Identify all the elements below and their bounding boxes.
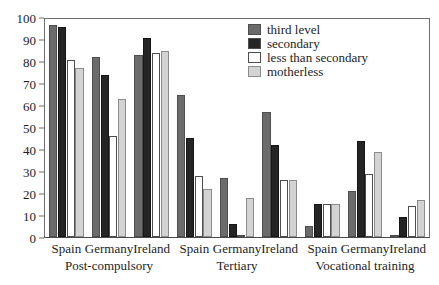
bar-motherless-germany-7: [374, 152, 382, 237]
y-axis-tick-label: 50: [23, 122, 36, 135]
y-axis: 1009080706050403020100: [0, 18, 44, 239]
bar-secondary-germany-7: [357, 141, 365, 237]
bar-less-than-secondary-ireland-5: [280, 180, 288, 237]
legend-swatch-icon: [248, 66, 261, 77]
legend-item-label: secondary: [267, 37, 320, 50]
legend-item: secondary: [248, 37, 424, 50]
bar-motherless-spain-3: [203, 189, 211, 237]
x-axis-label-spain-6: Spain: [308, 242, 338, 255]
bar-less-than-secondary-germany-7: [365, 174, 373, 238]
legend-item-label: third level: [267, 23, 320, 36]
x-axis-label-ireland-5: Ireland: [261, 242, 298, 255]
x-axis-country-labels: SpainGermanyIrelandSpainGermanyIrelandSp…: [45, 242, 429, 258]
legend-item: motherless: [248, 65, 424, 78]
group-label-post-compulsory: Post-compulsory: [65, 259, 153, 272]
bar-less-than-secondary-ireland-8: [408, 206, 416, 237]
bar-less-than-secondary-spain-3: [195, 176, 203, 237]
bar-third-level-germany-7: [348, 191, 356, 237]
bar-less-than-secondary-spain-6: [323, 204, 331, 237]
x-axis-label-ireland-2: Ireland: [133, 242, 170, 255]
bar-less-than-secondary-ireland-2: [152, 53, 160, 237]
bar-secondary-germany-1: [101, 75, 109, 237]
bar-third-level-spain-0: [49, 25, 57, 237]
bar-third-level-ireland-8: [390, 235, 398, 237]
bar-motherless-germany-4: [246, 198, 254, 237]
bar-motherless-spain-6: [331, 204, 339, 237]
y-axis-tick-label: 70: [23, 78, 36, 91]
y-axis-tick-label: 20: [23, 188, 36, 201]
legend-item-label: less than secondary: [267, 51, 368, 64]
x-axis-label-spain-3: Spain: [180, 242, 210, 255]
legend-swatch-icon: [248, 52, 261, 63]
x-axis-group-labels: Post-compulsoryTertiaryVocational traini…: [45, 259, 429, 277]
x-axis-label-germany-7: Germany: [341, 242, 389, 255]
x-axis-label-germany-4: Germany: [213, 242, 261, 255]
y-axis-tick-label: 60: [23, 100, 36, 113]
y-axis-tick-label: 0: [30, 232, 37, 245]
x-axis-label-ireland-8: Ireland: [389, 242, 426, 255]
legend-swatch-icon: [248, 24, 261, 35]
chart-page: 1009080706050403020100 third levelsecond…: [0, 0, 439, 285]
legend-item: third level: [248, 23, 424, 36]
legend-swatch-icon: [248, 38, 261, 49]
bar-motherless-germany-1: [118, 99, 126, 237]
x-axis-label-germany-1: Germany: [85, 242, 133, 255]
bar-third-level-spain-3: [177, 95, 185, 237]
bar-third-level-germany-1: [92, 57, 100, 237]
y-axis-tick-label: 80: [23, 56, 36, 69]
bar-third-level-ireland-2: [134, 55, 142, 237]
bar-secondary-germany-4: [229, 224, 237, 237]
y-axis-tick-label: 30: [23, 166, 36, 179]
bar-secondary-ireland-2: [143, 38, 151, 237]
bar-less-than-secondary-germany-1: [109, 136, 117, 237]
bar-third-level-germany-4: [220, 178, 228, 237]
bar-secondary-spain-6: [314, 204, 322, 237]
bar-secondary-spain-0: [58, 27, 66, 237]
x-axis-label-spain-0: Spain: [52, 242, 82, 255]
y-axis-tick-label: 10: [23, 210, 36, 223]
bar-less-than-secondary-germany-4: [237, 235, 245, 237]
legend-item: less than secondary: [248, 51, 424, 64]
bar-secondary-ireland-5: [271, 145, 279, 237]
bar-third-level-ireland-5: [262, 112, 270, 237]
bar-motherless-ireland-2: [161, 51, 169, 237]
y-axis-tick-label: 100: [17, 12, 37, 25]
group-label-vocational-training: Vocational training: [315, 259, 414, 272]
bar-motherless-ireland-8: [417, 200, 425, 237]
y-axis-tick-label: 40: [23, 144, 36, 157]
bar-secondary-ireland-8: [399, 217, 407, 237]
bar-motherless-spain-0: [75, 68, 83, 237]
bar-third-level-spain-6: [305, 226, 313, 237]
bar-secondary-spain-3: [186, 138, 194, 237]
bar-motherless-ireland-5: [289, 180, 297, 237]
group-label-tertiary: Tertiary: [217, 259, 258, 272]
legend-item-label: motherless: [267, 65, 323, 78]
bar-less-than-secondary-spain-0: [67, 60, 75, 237]
chart-legend: third levelsecondaryless than secondarym…: [248, 21, 424, 81]
y-axis-tick-label: 90: [23, 34, 36, 47]
